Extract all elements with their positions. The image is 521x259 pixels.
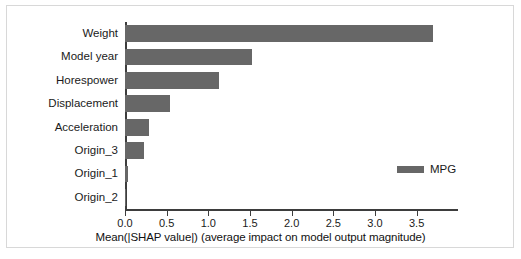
bar-row xyxy=(125,116,445,139)
bar xyxy=(125,95,170,112)
x-tick-mark xyxy=(167,211,168,216)
legend-swatch-mpg xyxy=(397,166,424,173)
x-tick-mark xyxy=(292,211,293,216)
bar-row xyxy=(125,186,445,209)
bar xyxy=(125,49,252,66)
bar-row xyxy=(125,69,445,92)
y-axis-label: Horespower xyxy=(0,69,118,92)
bar xyxy=(125,72,219,89)
bar xyxy=(125,142,144,159)
y-axis-label: Displacement xyxy=(0,92,118,115)
x-tick-label: 3.5 xyxy=(397,217,437,229)
x-tick-mark xyxy=(125,211,126,216)
y-axis-label: Origin_2 xyxy=(0,186,118,209)
legend-label-mpg: MPG xyxy=(430,163,456,175)
legend: MPG xyxy=(397,163,456,175)
y-axis-label: Model year xyxy=(0,45,118,68)
y-axis-category-labels: WeightModel yearHorespowerDisplacementAc… xyxy=(0,22,118,209)
x-tick-mark xyxy=(417,211,418,216)
bar-row xyxy=(125,92,445,115)
bar-row xyxy=(125,45,445,68)
x-tick-mark xyxy=(333,211,334,216)
bar xyxy=(125,25,433,42)
x-tick-mark xyxy=(208,211,209,216)
x-tick-label: 3.0 xyxy=(355,217,395,229)
x-tick-label: 0.5 xyxy=(147,217,187,229)
plot-area xyxy=(125,22,445,209)
bar-row xyxy=(125,22,445,45)
x-tick-label: 1.0 xyxy=(188,217,228,229)
y-axis-label: Origin_3 xyxy=(0,139,118,162)
x-tick-mark xyxy=(375,211,376,216)
y-axis-label: Acceleration xyxy=(0,116,118,139)
bar-row xyxy=(125,139,445,162)
x-tick-label: 2.0 xyxy=(272,217,312,229)
x-tick-mark xyxy=(250,211,251,216)
x-axis-title: Mean(|SHAP value|) (average impact on mo… xyxy=(0,231,521,243)
y-axis-label: Origin_1 xyxy=(0,162,118,185)
y-axis-label: Weight xyxy=(0,22,118,45)
x-tick-label: 0.0 xyxy=(105,217,145,229)
bar xyxy=(125,189,126,206)
shap-feature-importance-chart: WeightModel yearHorespowerDisplacementAc… xyxy=(0,0,521,259)
bar xyxy=(125,119,149,136)
bar xyxy=(125,166,128,183)
x-tick-label: 2.5 xyxy=(313,217,353,229)
x-tick-label: 1.5 xyxy=(230,217,270,229)
